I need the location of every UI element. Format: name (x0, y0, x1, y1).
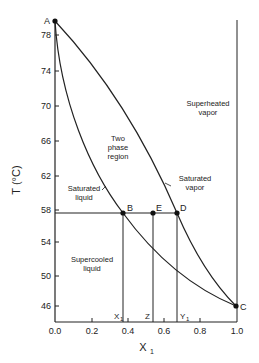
svg-text:66: 66 (41, 136, 51, 146)
point-e-label: E (156, 203, 162, 213)
svg-text:58: 58 (41, 205, 51, 215)
x-axis-title: X 1 (139, 341, 154, 355)
svg-text:78: 78 (41, 30, 51, 40)
svg-text:1: 1 (150, 348, 154, 355)
svg-text:0.4: 0.4 (122, 326, 135, 336)
phase-diagram: 78 74 70 66 62 58 54 50 46 0.0 0.2 0.4 0… (0, 0, 259, 363)
x-markers: X 1 Z Y 1 (114, 312, 190, 322)
y-tick-labels: 78 74 70 66 62 58 54 50 46 (41, 30, 51, 311)
svg-text:70: 70 (41, 101, 51, 111)
saturated-vapor-pointer (165, 183, 171, 186)
point-b-marker (120, 210, 125, 215)
x-tick-labels: 0.0 0.2 0.4 0.6 0.8 1.0 (49, 326, 244, 336)
svg-text:0.2: 0.2 (86, 326, 99, 336)
svg-text:50: 50 (41, 271, 51, 281)
svg-text:region: region (108, 152, 129, 161)
svg-text:X: X (139, 341, 147, 353)
point-d-marker (174, 210, 179, 215)
point-b-label: B (127, 203, 133, 213)
point-c-marker (233, 303, 238, 308)
svg-text:74: 74 (41, 66, 51, 76)
point-a-marker (52, 18, 57, 23)
svg-text:0.6: 0.6 (158, 326, 171, 336)
point-e-marker (150, 210, 155, 215)
point-labels: A B E D C (44, 16, 247, 312)
label-saturated-liquid: Saturated (68, 184, 101, 193)
label-saturated-vapor: Saturated (179, 174, 212, 183)
svg-text:62: 62 (41, 171, 51, 181)
svg-text:1: 1 (186, 316, 190, 322)
region-labels: Superheated vapor Two phase region Satur… (68, 99, 230, 273)
svg-text:liquid: liquid (83, 264, 101, 273)
svg-text:1.0: 1.0 (231, 326, 244, 336)
svg-text:46: 46 (41, 301, 51, 311)
svg-text:0.0: 0.0 (49, 326, 62, 336)
point-c-label: C (240, 302, 247, 312)
svg-text:54: 54 (41, 237, 51, 247)
svg-text:phase: phase (108, 143, 128, 152)
label-supercooled: Supercooled (71, 255, 113, 264)
point-d-label: D (180, 203, 187, 213)
marker-z: Z (145, 312, 150, 321)
label-two-phase: Two (111, 134, 125, 143)
svg-text:0.8: 0.8 (194, 326, 207, 336)
label-superheated: Superheated (187, 99, 230, 108)
svg-text:liquid: liquid (75, 193, 93, 202)
point-a-label: A (44, 16, 50, 26)
svg-text:vapor: vapor (186, 183, 205, 192)
svg-text:vapor: vapor (199, 108, 218, 117)
y-axis-title: T (°C) (10, 165, 22, 194)
